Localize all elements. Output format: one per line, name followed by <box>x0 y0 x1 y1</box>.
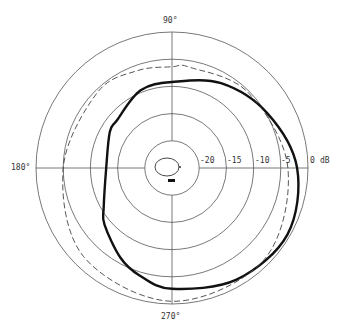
angle-label-270: 270° <box>161 312 180 321</box>
polar-plot <box>0 0 343 335</box>
grid-ring <box>145 141 199 195</box>
radial-label-minus5: -5 <box>281 156 291 165</box>
series-inner-curve <box>155 158 179 176</box>
radial-label-minus15: -15 <box>227 156 241 165</box>
polar-grid <box>36 32 308 304</box>
angle-label-90: 90° <box>163 16 177 25</box>
inner-marker-dot <box>179 166 181 168</box>
radial-label-0: 0 <box>310 156 315 165</box>
series-solid-curve <box>103 80 299 289</box>
polar-curves <box>63 65 299 301</box>
origin-marker <box>168 179 175 182</box>
radial-label-minus10: -10 <box>255 156 269 165</box>
angle-label-180: 180° <box>11 163 30 172</box>
radial-unit-label: dB <box>320 156 330 165</box>
radial-label-minus20: -20 <box>200 156 214 165</box>
